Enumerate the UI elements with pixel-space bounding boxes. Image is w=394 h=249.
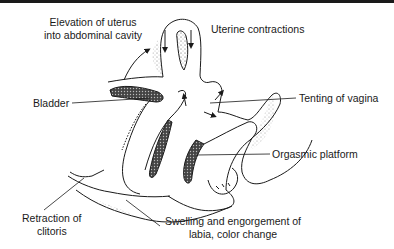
label-swelling-of-labia: Swelling and engorgement of labia, color…: [165, 215, 301, 241]
label-swelling-line1: Swelling and engorgement of: [165, 215, 301, 228]
label-retraction-line1: Retraction of: [22, 212, 82, 225]
label-tenting-of-vagina: Tenting of vagina: [299, 92, 378, 105]
label-retraction-line2: clitoris: [22, 225, 82, 238]
label-elevation-of-uterus: Elevation of uterus into abdominal cavit…: [44, 16, 142, 42]
cervix-and-vagina: [145, 90, 312, 183]
orgasmic-platform-leader: [196, 154, 270, 155]
tenting-leader: [210, 98, 296, 103]
label-retraction-of-clitoris: Retraction of clitoris: [22, 212, 82, 238]
label-orgasmic-platform: Orgasmic platform: [272, 148, 358, 161]
bladder: [110, 86, 163, 194]
label-elevation-line2: into abdominal cavity: [44, 29, 142, 42]
bladder-leader: [72, 98, 150, 103]
label-elevation-line1: Elevation of uterus: [44, 16, 142, 29]
labia-leader: [126, 200, 160, 226]
label-swelling-line2: labia, color change: [165, 228, 301, 241]
label-uterine-contractions: Uterine contractions: [211, 23, 304, 36]
leader-lines: [44, 98, 296, 226]
clitoris-leader: [44, 178, 84, 210]
label-bladder: Bladder: [33, 97, 69, 110]
